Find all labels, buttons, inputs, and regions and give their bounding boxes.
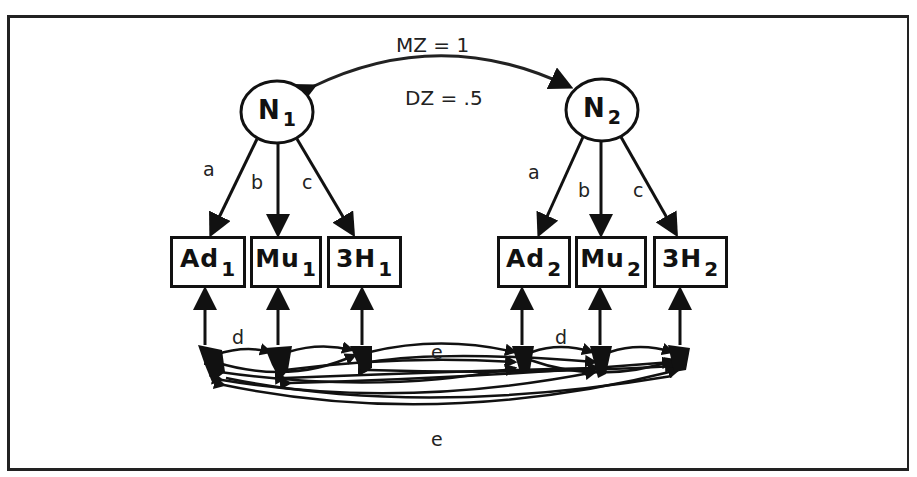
observed-ad1-box: Ad1 — [170, 236, 246, 288]
observed-3h1-box: 3H1 — [327, 236, 402, 288]
latent-n1-label: N1 — [258, 97, 296, 129]
loading-arrows-twin1 — [212, 139, 352, 232]
residual-d-label-twin1: d — [232, 328, 244, 347]
observed-3h2-box: 3H2 — [653, 236, 728, 288]
path-diagram-lines — [0, 0, 917, 477]
residual-e-label-upper: e — [431, 343, 443, 362]
latent-n2-label: N2 — [583, 95, 621, 127]
residual-e-label-lower: e — [431, 430, 443, 449]
mz-correlation-label: MZ = 1 — [396, 35, 469, 55]
loading-a-label-twin1: a — [203, 160, 215, 179]
loading-c-label-twin1: c — [302, 173, 312, 192]
loading-arrows-twin2 — [540, 137, 675, 232]
loading-b-label-twin1: b — [251, 173, 263, 192]
observed-mu1-box: Mu1 — [250, 236, 322, 288]
residual-d-label-twin2: d — [555, 328, 567, 347]
residual-arrows — [205, 292, 680, 345]
loading-a-label-twin2: a — [528, 163, 540, 182]
loading-b-label-twin2: b — [578, 181, 590, 200]
observed-ad2-box: Ad2 — [497, 236, 571, 288]
dz-correlation-label: DZ = .5 — [405, 88, 483, 108]
loading-c-label-twin2: c — [633, 181, 643, 200]
observed-mu2-box: Mu2 — [575, 236, 647, 288]
twin-correlation-arc — [312, 56, 568, 87]
